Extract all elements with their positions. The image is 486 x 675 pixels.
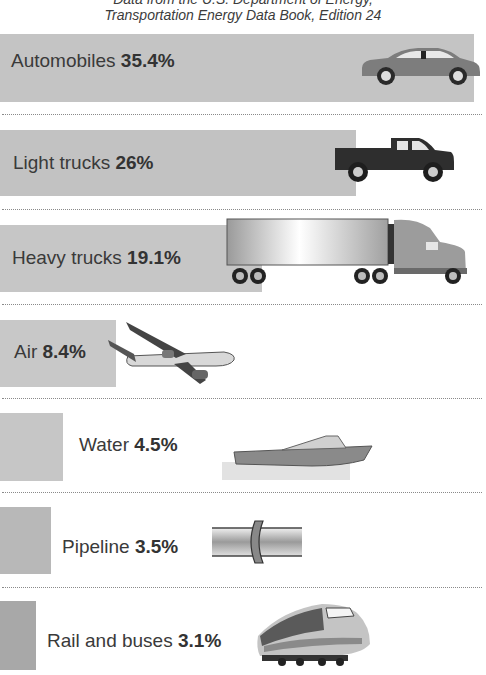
category-value: 35.4% bbox=[121, 50, 175, 71]
divider bbox=[2, 492, 482, 493]
pipeline-icon bbox=[211, 519, 303, 565]
divider bbox=[2, 587, 482, 588]
category-name: Heavy trucks bbox=[12, 247, 122, 268]
train-icon bbox=[252, 600, 372, 668]
divider bbox=[2, 209, 482, 210]
car-icon bbox=[360, 46, 482, 86]
bar-pipeline bbox=[0, 507, 51, 574]
category-name: Light trucks bbox=[13, 152, 110, 173]
label-automobiles: Automobiles 35.4% bbox=[11, 50, 175, 72]
label-pipeline: Pipeline 3.5% bbox=[62, 536, 178, 558]
label-water: Water 4.5% bbox=[79, 434, 178, 456]
semi-truck-icon bbox=[226, 218, 482, 286]
label-light-trucks: Light trucks 26% bbox=[13, 152, 153, 174]
category-name: Water bbox=[79, 434, 129, 455]
category-name: Rail and buses bbox=[47, 630, 173, 651]
category-value: 4.5% bbox=[134, 434, 177, 455]
category-value: 3.5% bbox=[135, 536, 178, 557]
category-name: Pipeline bbox=[62, 536, 130, 557]
bar-rail-and-buses bbox=[0, 601, 36, 670]
divider bbox=[2, 114, 482, 115]
category-value: 3.1% bbox=[178, 630, 221, 651]
label-heavy-trucks: Heavy trucks 19.1% bbox=[12, 247, 181, 269]
category-name: Air bbox=[14, 341, 37, 362]
category-value: 19.1% bbox=[127, 247, 181, 268]
divider bbox=[2, 398, 482, 399]
category-value: 26% bbox=[115, 152, 153, 173]
divider bbox=[2, 304, 482, 305]
airplane-icon bbox=[106, 318, 238, 388]
label-rail-and-buses: Rail and buses 3.1% bbox=[47, 630, 221, 652]
bar-water bbox=[0, 413, 63, 481]
category-name: Automobiles bbox=[11, 50, 116, 71]
category-value: 8.4% bbox=[43, 341, 86, 362]
subtitle-line-1: Data from the U.S. Department of Energy, bbox=[0, 0, 486, 7]
boat-icon bbox=[222, 430, 374, 482]
subtitle-line-2: Transportation Energy Data Book, Edition… bbox=[0, 7, 486, 23]
pickup-truck-icon bbox=[333, 136, 455, 186]
label-air: Air 8.4% bbox=[14, 341, 86, 363]
